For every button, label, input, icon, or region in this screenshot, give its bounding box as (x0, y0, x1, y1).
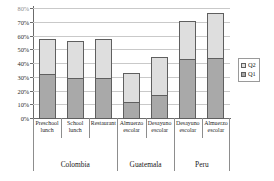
y-tick-50 (30, 49, 33, 50)
y-tick-label-20: 20% (18, 87, 29, 94)
bar-segment-q1 (207, 58, 224, 119)
bar-segment-q1 (123, 102, 140, 119)
bar-segment-q2 (95, 39, 112, 78)
gridline-80 (33, 8, 230, 9)
category-label-6: Desayunoescolar (173, 120, 203, 133)
y-tick-60 (30, 36, 33, 37)
group-separator (33, 118, 34, 171)
category-label-5: Desayunoescolar (145, 120, 175, 133)
y-tick-label-30: 30% (18, 73, 29, 80)
category-label-line1: Almuerzo (201, 120, 231, 127)
category-label-line1: School (60, 120, 90, 127)
legend-item-q2[interactable]: Q2 (241, 61, 256, 70)
y-tick-30 (30, 77, 33, 78)
gridline-40 (33, 63, 230, 64)
gridline-50 (33, 49, 230, 50)
category-label-2: Schoollunch (60, 120, 90, 133)
category-label-line2: escolar (117, 127, 147, 134)
bar-segment-q1 (67, 78, 84, 119)
bar-2[interactable] (67, 41, 84, 118)
category-label-line1: Almuerzo (117, 120, 147, 127)
bar-segment-q2 (67, 41, 84, 77)
bar-segment-q1 (39, 74, 56, 119)
category-label-3: Restaurant (88, 120, 118, 127)
bar-5[interactable] (151, 57, 168, 118)
y-tick-label-40: 40% (18, 60, 29, 67)
bar-segment-q1 (179, 59, 196, 120)
plot-area: 0%10%20%30%40%50%60%70%80% (33, 8, 230, 118)
category-label-line1: Restaurant (88, 120, 118, 127)
category-label-line1: Desayuno (173, 120, 203, 127)
legend-swatch-q1 (241, 72, 246, 77)
category-label-line2: lunch (32, 127, 62, 134)
category-label-line2: escolar (201, 127, 231, 134)
bar-segment-q2 (123, 73, 140, 102)
legend-label-q2: Q2 (248, 62, 256, 68)
y-tick-20 (30, 91, 33, 92)
category-label-line2: lunch (60, 127, 90, 134)
category-label-line2: escolar (145, 127, 175, 134)
bar-segment-q2 (39, 39, 56, 73)
y-tick-70 (30, 22, 33, 23)
bar-segment-q2 (151, 57, 168, 95)
bar-segment-q1 (95, 78, 112, 119)
y-tick-80 (30, 8, 33, 9)
y-tick-label-60: 60% (18, 32, 29, 39)
gridline-70 (33, 22, 230, 23)
bar-4[interactable] (123, 73, 140, 118)
legend-item-q1[interactable]: Q1 (241, 70, 256, 79)
y-tick-10 (30, 104, 33, 105)
legend-swatch-q2 (241, 63, 246, 68)
group-label-peru: Peru (167, 160, 237, 169)
gridline-60 (33, 36, 230, 37)
y-tick-label-80: 80% (18, 5, 29, 12)
bar-1[interactable] (39, 39, 56, 118)
group-label-colombia: Colombia (40, 160, 110, 169)
bar-3[interactable] (95, 39, 112, 118)
bar-segment-q2 (179, 21, 196, 58)
y-tick-label-10: 10% (18, 101, 29, 108)
category-label-line2: escolar (173, 127, 203, 134)
y-tick-label-50: 50% (18, 46, 29, 53)
chart-legend: Q2 Q1 (238, 58, 260, 82)
bar-segment-q2 (207, 13, 224, 58)
bar-7[interactable] (207, 13, 224, 118)
stacked-bar-chart: 0%10%20%30%40%50%60%70%80% Preschoollunc… (0, 0, 274, 181)
category-label-4: Almuerzoescolar (117, 120, 147, 133)
category-label-7: Almuerzoescolar (201, 120, 231, 133)
category-label-1: Preschoollunch (32, 120, 62, 133)
legend-label-q1: Q1 (248, 71, 256, 77)
bar-6[interactable] (179, 21, 196, 118)
bar-segment-q1 (151, 95, 168, 119)
y-tick-label-0: 0% (21, 115, 29, 122)
y-tick-label-70: 70% (18, 18, 29, 25)
y-tick-40 (30, 63, 33, 64)
category-label-line1: Desayuno (145, 120, 175, 127)
category-label-line1: Preschool (32, 120, 62, 127)
